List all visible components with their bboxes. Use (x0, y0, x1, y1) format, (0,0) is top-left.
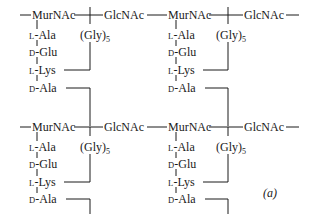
murnac-label: MurNAc (32, 121, 75, 133)
stem-l-lys: L-Lys (168, 64, 195, 77)
stem-d-glu: D-Glu (168, 46, 196, 59)
stem-l-ala: L-Ala (29, 141, 56, 154)
glcnac-label: GlcNAc (104, 9, 144, 21)
murnac-label: MurNAc (168, 9, 211, 21)
glcnac-label: GlcNAc (244, 121, 284, 133)
stem-l-lys: L-Lys (168, 176, 195, 189)
stem-d-glu: D-Glu (168, 158, 196, 171)
stem-d-glu: D-Glu (29, 46, 57, 59)
peptidoglycan-diagram: MurNAc GlcNAc L-Ala D-Glu L-Lys D-Ala (G… (0, 0, 312, 219)
gly-bridge-label: (Gly)5 (80, 141, 110, 155)
stem-d-ala: D-Ala (168, 82, 196, 95)
murnac-label: MurNAc (168, 121, 211, 133)
stem-l-ala: L-Ala (168, 141, 195, 154)
stem-l-lys: L-Lys (29, 176, 56, 189)
gly-bridge-label: (Gly)5 (80, 29, 110, 43)
stem-d-ala: D-Ala (168, 193, 196, 206)
stem-l-ala: L-Ala (29, 29, 56, 42)
gly-bridge-label: (Gly)5 (216, 29, 246, 43)
murnac-label: MurNAc (32, 9, 75, 21)
glcnac-label: GlcNAc (104, 121, 144, 133)
figure-label: (a) (263, 187, 277, 199)
stem-d-glu: D-Glu (29, 158, 57, 171)
gly-bridge-label: (Gly)5 (216, 141, 246, 155)
stem-d-ala: D-Ala (29, 82, 57, 95)
stem-d-ala: D-Ala (29, 193, 57, 206)
stem-l-ala: L-Ala (168, 29, 195, 42)
stem-l-lys: L-Lys (29, 64, 56, 77)
glcnac-label: GlcNAc (244, 9, 284, 21)
